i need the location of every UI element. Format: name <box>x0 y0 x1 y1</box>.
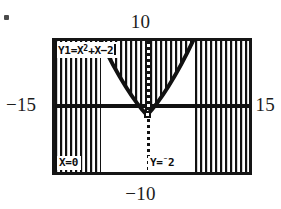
window-label-ymax: 10 <box>0 12 281 31</box>
graph-plot-area: Y1=X 2 +X−2 X= 0 Y= ⁻ 2 <box>55 41 249 172</box>
trace-x-readout: X= 0 <box>57 156 81 170</box>
parabola-curve <box>55 41 249 172</box>
window-label-xmax: 15 <box>256 95 275 114</box>
calculator-screen: Y1=X 2 +X−2 X= 0 Y= ⁻ 2 <box>52 38 252 175</box>
function-readout-exponent: 2 <box>83 45 88 53</box>
window-label-xmin: −15 <box>6 95 36 114</box>
window-label-ymin: −10 <box>0 184 281 203</box>
text-cursor-icon <box>114 44 116 55</box>
trace-y-label: Y= <box>150 157 163 169</box>
function-readout-suffix: +X−2 <box>88 45 113 57</box>
function-readout-prefix: Y1=X <box>58 45 83 57</box>
trace-y-negative-sign: ⁻ <box>163 156 168 165</box>
trace-x-value: 0 <box>72 157 78 169</box>
function-readout: Y1=X 2 +X−2 <box>57 42 118 58</box>
trace-x-label: X= <box>59 157 72 169</box>
trace-y-value: 2 <box>168 157 174 169</box>
trace-cursor <box>144 111 151 118</box>
trace-y-readout: Y= ⁻ 2 <box>148 156 177 170</box>
